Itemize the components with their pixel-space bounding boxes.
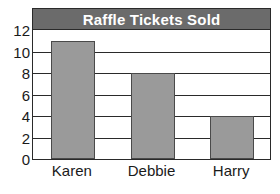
y-axis-tick-label: 12 [4, 23, 30, 38]
plot-area [32, 30, 271, 160]
bar [51, 41, 95, 159]
y-axis-tick-label: 8 [4, 66, 30, 81]
bar-chart: 024681012 Raffle Tickets Sold KarenDebbi… [0, 0, 280, 194]
y-axis: 024681012 [0, 0, 30, 194]
y-axis-tick-label: 2 [4, 131, 30, 146]
chart-title: Raffle Tickets Sold [83, 11, 221, 28]
bar [210, 116, 254, 159]
plot-inner [33, 30, 270, 159]
chart-title-bar: Raffle Tickets Sold [32, 8, 271, 30]
x-axis: KarenDebbieHarry [32, 162, 271, 184]
y-axis-tick-label: 10 [4, 45, 30, 60]
y-axis-tick-label: 4 [4, 109, 30, 124]
x-axis-tick-label: Karen [32, 162, 112, 181]
bar [131, 73, 175, 159]
y-axis-tick-label: 0 [4, 152, 30, 167]
y-axis-tick-label: 6 [4, 88, 30, 103]
x-axis-tick-label: Debbie [112, 162, 192, 181]
x-axis-tick-label: Harry [191, 162, 271, 181]
